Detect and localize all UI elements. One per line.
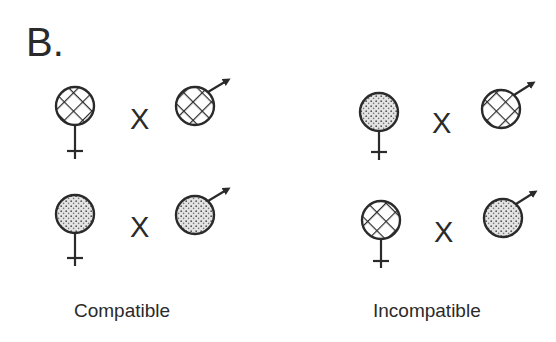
male-symbol-stippled	[176, 189, 228, 234]
female-symbol-stippled	[56, 195, 94, 266]
female-symbol-hatched	[56, 87, 94, 159]
caption-compatible: Compatible	[74, 300, 170, 322]
male-symbol-stippled	[484, 192, 535, 237]
mating-diagram	[0, 0, 556, 342]
cross-symbol: X	[434, 217, 453, 247]
male-symbol-hatched	[176, 80, 228, 125]
male-symbol-hatched	[482, 83, 533, 128]
female-symbol-hatched	[362, 201, 400, 268]
female-symbol-stippled	[360, 93, 398, 160]
cross-symbol: X	[130, 104, 149, 134]
caption-incompatible: Incompatible	[373, 300, 481, 322]
cross-symbol: X	[130, 212, 149, 242]
cross-symbol: X	[432, 108, 451, 138]
